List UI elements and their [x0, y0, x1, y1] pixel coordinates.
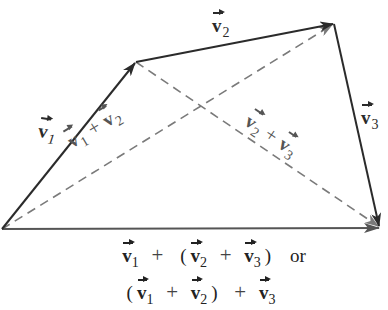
or-text: or	[290, 245, 306, 266]
caption-line-2: (v1 + v2) + v3	[0, 280, 388, 308]
label-v3: v3	[361, 108, 379, 132]
subscript: 3	[268, 292, 275, 307]
subscript: 2	[200, 255, 207, 270]
subscript: 2	[200, 292, 207, 307]
vector-v3-symbol: v	[244, 245, 254, 267]
plus-sign: +	[166, 280, 178, 304]
subscript: 1	[146, 292, 153, 307]
vector-v2-plus-v3-dashed	[136, 62, 378, 226]
vector-v1-symbol: v	[122, 245, 132, 267]
vector-v3-symbol: v	[259, 282, 269, 304]
label-v2: v2	[212, 16, 230, 40]
plus-sign: +	[234, 280, 246, 304]
vector-v1	[2, 63, 135, 229]
vector-arrow-icon: v	[212, 16, 222, 35]
caption-line-1: v1 + (v2 + v3) or	[0, 243, 388, 271]
close-paren: )	[211, 282, 217, 303]
label-v1: v1	[36, 121, 57, 147]
vector-sum	[2, 228, 379, 229]
vector-v2	[136, 24, 333, 62]
open-paren: (	[127, 282, 133, 303]
plus-sign: +	[152, 243, 164, 267]
subscript: 3	[372, 117, 379, 132]
plus-sign: +	[220, 243, 232, 267]
vector-v1-symbol: v	[137, 282, 147, 304]
open-paren: (	[180, 245, 186, 266]
vector-v2-symbol: v	[191, 282, 201, 304]
vector-arrow-icon: v	[361, 108, 371, 127]
subscript: 3	[254, 255, 261, 270]
vector-v2-symbol: v	[190, 245, 200, 267]
subscript: 2	[223, 25, 230, 40]
vector-arrow-icon: v	[37, 121, 49, 141]
subscript: 1	[132, 255, 139, 270]
close-paren: )	[265, 245, 271, 266]
